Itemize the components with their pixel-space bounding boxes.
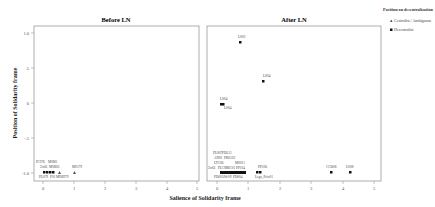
marker-square [49, 171, 52, 174]
point-label: LS04 [220, 97, 228, 101]
point-label: 2ic61 [40, 165, 48, 169]
scatter-chart: Before LN After LN 1.0 .5 0 -.5 -1.0 Pos… [0, 0, 435, 207]
point-label: PP106 [258, 165, 267, 169]
y-axis: 1.0 .5 0 -.5 -1.0 [22, 31, 34, 176]
legend-title: Position on decentralization [383, 7, 433, 12]
point-label: PS1 [50, 175, 56, 179]
point-label: MS011 [235, 161, 245, 165]
point-label: LS02 [238, 35, 246, 39]
point-label: LTC06 [214, 161, 224, 165]
marker-square [43, 171, 46, 174]
y-tick-label: .5 [26, 66, 30, 71]
point-label: LS04 [224, 106, 232, 110]
points-before: PCI76 MSB0 2ic61 MSB03 PL079 PS1 MP6H79 … [36, 160, 82, 179]
x-tick-label: 1 [247, 186, 249, 191]
x-axis-label: Salience of Solidarity frame [169, 195, 240, 201]
x-tick-label: 4 [166, 186, 169, 191]
point-label: PLCMBC01 [218, 166, 235, 170]
point-label: PL007PDL11 [213, 151, 232, 155]
legend-triangle-icon [390, 20, 393, 23]
panel-before-frame [34, 26, 199, 181]
point-label: LS08 [346, 165, 354, 169]
marker-square [259, 171, 262, 174]
point-label: PP104 [236, 166, 245, 170]
panel-title-after: After LN [281, 16, 307, 23]
marker-square [46, 171, 49, 174]
point-label: PD005Pd/09 [214, 175, 232, 179]
x-axis-after: 0 1 2 3 4 5 [216, 181, 376, 191]
points-after: LS02 LS04 LS04 LS04 PL007PDL11 AN01 PK01… [208, 35, 354, 179]
point-label: AN01 [214, 156, 223, 160]
y-axis-label: Position of Solidarity frame [12, 67, 18, 138]
point-label: Lega_Pcio01 [255, 175, 273, 179]
marker-triangle [58, 171, 61, 174]
legend: Position on decentralization Centralist … [383, 7, 433, 32]
point-label: MS179 [72, 165, 82, 169]
x-tick-label: 2 [279, 186, 281, 191]
marker-triangle [73, 171, 76, 174]
x-tick-label: 1 [73, 186, 75, 191]
y-tick-label: -.5 [24, 136, 30, 141]
x-tick-label: 4 [342, 186, 345, 191]
x-tick-label: 0 [42, 186, 45, 191]
point-label: PCI76 [36, 160, 45, 164]
marker-square [239, 41, 242, 44]
point-label: PL079 [39, 175, 48, 179]
point-label: 2ic61 [208, 166, 216, 170]
point-label: MP6H79 [56, 175, 69, 179]
panel-title-before: Before LN [102, 16, 131, 23]
point-label: MSB03 [49, 165, 60, 169]
marker-square [330, 171, 333, 174]
marker-square [349, 171, 352, 174]
point-label: LS04 [263, 74, 271, 78]
y-tick-label: -1.0 [22, 171, 30, 176]
x-tick-label: 3 [135, 186, 138, 191]
marker-square [256, 171, 259, 174]
legend-label-centralist: Centralist / Ambiguous [394, 18, 432, 23]
x-tick-label: 5 [196, 186, 199, 191]
point-label: MSB0 [48, 160, 57, 164]
point-label: PD004 [233, 175, 243, 179]
marker-cluster [220, 171, 246, 174]
y-tick-label: 1.0 [23, 31, 29, 36]
marker-square [262, 80, 265, 83]
legend-square-icon [390, 29, 393, 32]
point-label: CCD08 [326, 165, 337, 169]
x-tick-label: 5 [373, 186, 376, 191]
marker-square [52, 171, 55, 174]
point-label: PK0102 [224, 156, 235, 160]
x-axis-before: 0 1 2 3 4 5 [42, 181, 199, 191]
x-tick-label: 2 [104, 186, 106, 191]
y-tick-label: 0 [27, 101, 30, 106]
x-tick-label: 0 [216, 186, 219, 191]
legend-label-decentralist: Decentralist [394, 27, 414, 32]
x-tick-label: 3 [310, 186, 313, 191]
